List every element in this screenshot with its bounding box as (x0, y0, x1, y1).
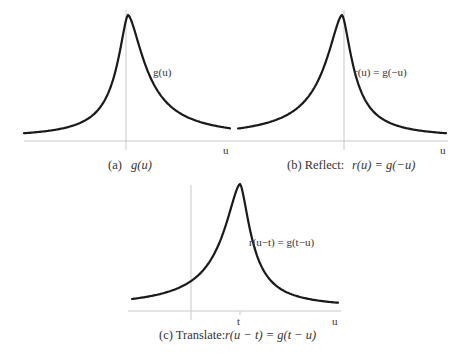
panel-c-axis-label: u (332, 315, 338, 327)
panel-c-tick-label-t: t (237, 315, 240, 327)
panel-a-caption-math: g(u) (131, 158, 152, 172)
panel-a-axis-label: u (223, 144, 229, 156)
panel-b: r(u) = g(−u) u (b) Reflect: r(u) = g(−u) (234, 10, 448, 172)
panel-a-curve-label: g(u) (153, 66, 172, 79)
panel-b-caption-prefix: (b) Reflect: (287, 158, 344, 172)
panel-b-curve-r (238, 15, 446, 133)
panel-a-curve-g (24, 15, 230, 133)
panel-c: r(u−t) = g(t−u) t u (c) Translate: r(u −… (128, 184, 341, 342)
panel-a-caption-prefix: (a) (108, 158, 122, 172)
panel-c-caption-math: r(u − t) = g(t − u) (225, 328, 316, 342)
figure: g(u) u (a) g(u) r(u) = g(−u) u (b) Refle… (0, 0, 468, 355)
panel-b-caption-math: r(u) = g(−u) (352, 158, 415, 172)
panel-b-curve-label: r(u) = g(−u) (354, 66, 407, 79)
panel-c-curve-label: r(u−t) = g(t−u) (249, 236, 314, 249)
panel-c-caption-prefix: (c) Translate: (159, 328, 225, 342)
panel-b-axis-label: u (440, 144, 446, 156)
panel-a: g(u) u (a) g(u) (24, 10, 234, 172)
